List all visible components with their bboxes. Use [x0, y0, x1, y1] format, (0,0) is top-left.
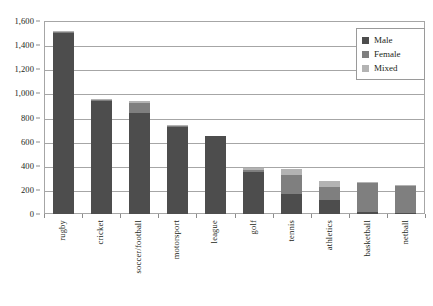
- legend: MaleFemaleMixed: [356, 28, 425, 80]
- legend-swatch-icon: [362, 37, 369, 44]
- x-tick-label: basketball: [363, 220, 372, 256]
- bar-group[interactable]: [53, 21, 74, 214]
- bar-segment-male[interactable]: [129, 113, 150, 214]
- legend-item-mixed[interactable]: Mixed: [362, 61, 419, 75]
- bar-segment-female[interactable]: [357, 183, 378, 212]
- y-axis: 02004006008001,0001,2001,4001,600: [0, 21, 40, 214]
- bar-stack: [357, 182, 378, 214]
- bar-segment-female[interactable]: [319, 187, 340, 199]
- bar-stack: [205, 136, 226, 214]
- legend-label: Female: [374, 50, 401, 59]
- bar-segment-male[interactable]: [91, 101, 112, 214]
- x-tick-mark: [311, 214, 312, 218]
- x-tick-mark: [425, 214, 426, 218]
- y-tick-mark: [36, 165, 40, 166]
- bar-chart: 02004006008001,0001,2001,4001,600 rugbyc…: [0, 0, 433, 306]
- y-tick-mark: [36, 141, 40, 142]
- bar-group[interactable]: [167, 21, 188, 214]
- bar-group[interactable]: [243, 21, 264, 214]
- legend-swatch-icon: [362, 51, 369, 58]
- x-tick-label: league: [210, 220, 219, 243]
- legend-item-female[interactable]: Female: [362, 47, 419, 61]
- y-tick-label: 1,200: [14, 65, 34, 74]
- x-axis: rugbycricketsoccer/footballmotorsportlea…: [44, 220, 425, 304]
- y-tick-label: 0: [30, 210, 34, 219]
- x-tick-label: netball: [401, 220, 410, 245]
- bar-segment-male[interactable]: [53, 33, 74, 214]
- x-tick-mark: [387, 214, 388, 218]
- bar-segment-female[interactable]: [281, 175, 302, 194]
- bar-segment-male[interactable]: [319, 200, 340, 214]
- x-tick-label: motorsport: [172, 220, 181, 259]
- bar-stack: [129, 101, 150, 214]
- bar-stack: [319, 181, 340, 214]
- x-tick-mark: [120, 214, 121, 218]
- bar-group[interactable]: [319, 21, 340, 214]
- x-tick-mark: [158, 214, 159, 218]
- x-tick-mark: [82, 214, 83, 218]
- bar-group[interactable]: [205, 21, 226, 214]
- x-axis-ticks: [44, 214, 425, 219]
- bar-stack: [53, 31, 74, 214]
- bar-segment-male[interactable]: [243, 172, 264, 214]
- x-tick-label: athletics: [325, 220, 334, 250]
- y-tick-mark: [36, 69, 40, 70]
- y-tick-label: 1,400: [14, 41, 34, 50]
- x-tick-label: soccer/football: [134, 220, 143, 274]
- bar-stack: [281, 169, 302, 214]
- bar-segment-female[interactable]: [395, 186, 416, 213]
- legend-label: Mixed: [374, 64, 398, 73]
- x-tick-mark: [196, 214, 197, 218]
- x-tick-label: rugby: [58, 220, 67, 241]
- bar-segment-mixed[interactable]: [281, 169, 302, 176]
- y-tick-mark: [36, 21, 40, 22]
- x-tick-label: golf: [249, 220, 258, 235]
- bar-stack: [243, 168, 264, 214]
- y-tick-label: 600: [21, 137, 34, 146]
- y-tick-label: 1,600: [14, 17, 34, 26]
- legend-label: Male: [374, 36, 393, 45]
- y-tick-mark: [36, 93, 40, 94]
- bar-stack: [395, 185, 416, 214]
- bar-stack: [91, 99, 112, 214]
- x-tick-label: tennis: [287, 220, 296, 242]
- x-tick-label: cricket: [96, 220, 105, 245]
- x-tick-mark: [273, 214, 274, 218]
- y-tick-mark: [36, 45, 40, 46]
- y-tick-label: 200: [21, 186, 34, 195]
- y-tick-label: 800: [21, 113, 34, 122]
- bar-segment-male[interactable]: [205, 136, 226, 214]
- y-tick-mark: [36, 214, 40, 215]
- bar-stack: [167, 125, 188, 214]
- y-tick-mark: [36, 117, 40, 118]
- bar-segment-female[interactable]: [129, 103, 150, 113]
- bar-group[interactable]: [129, 21, 150, 214]
- bar-group[interactable]: [281, 21, 302, 214]
- x-tick-mark: [44, 214, 45, 218]
- y-tick-mark: [36, 189, 40, 190]
- bar-group[interactable]: [91, 21, 112, 214]
- y-tick-label: 400: [21, 162, 34, 171]
- legend-swatch-icon: [362, 65, 369, 72]
- bar-segment-male[interactable]: [167, 127, 188, 214]
- y-tick-label: 1,000: [14, 89, 34, 98]
- x-tick-mark: [235, 214, 236, 218]
- bar-segment-male[interactable]: [281, 194, 302, 214]
- x-tick-mark: [349, 214, 350, 218]
- legend-item-male[interactable]: Male: [362, 33, 419, 47]
